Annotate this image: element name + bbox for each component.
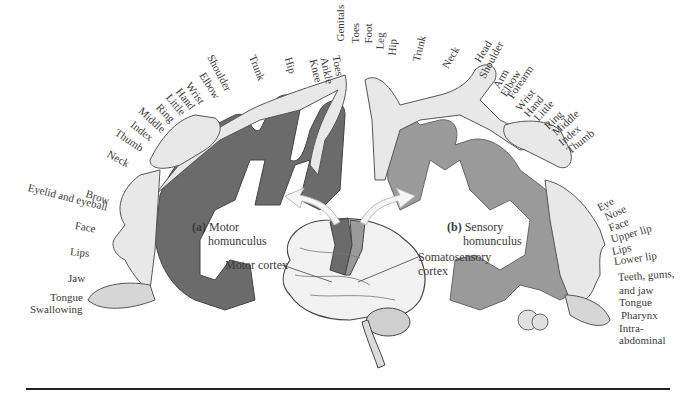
sensory-label-intra: Intra- (619, 323, 643, 334)
motor-tongue (88, 283, 155, 308)
sensory-label-hip: Hip (387, 39, 399, 56)
motor-label-swallowing: Swallowing (30, 304, 83, 315)
motor-caption-line2: homunculus (192, 234, 267, 248)
sensory-label-pharynx: Pharynx (621, 310, 658, 321)
brain-lateral-view (282, 188, 425, 368)
motor-caption-line1: Motor (209, 220, 239, 234)
motor-label-tongue: Tongue (50, 292, 83, 303)
bottom-rule-divider (26, 388, 670, 390)
sensory-caption-line2: homunculus (447, 234, 522, 248)
sensory-label-leg: Leg (375, 32, 387, 49)
sensory-tongue (565, 295, 610, 325)
somatosensory-label-line2: cortex (418, 264, 448, 278)
motor-label-jaw: Jaw (68, 273, 85, 284)
sensory-label-abdominal: abdominal (619, 335, 665, 346)
motor-homunculus-caption: (a) Motor homunculus (192, 220, 267, 248)
motor-caption-letter: (a) (192, 220, 206, 234)
sensory-label-genitals: Genitals (335, 5, 346, 42)
sensory-label-foot: Foot (363, 23, 374, 43)
sensory-label-tongue: Tongue (619, 297, 652, 308)
somatosensory-label-line1: Somatosensory (418, 250, 491, 264)
motor-cortex-label: Motor cortex (225, 258, 288, 272)
sensory-caption-line1: Sensory (465, 220, 504, 234)
sensory-caption-letter: (b) (447, 220, 462, 234)
sensory-homunculus-caption: (b) Sensory homunculus (447, 220, 522, 248)
sensory-label-and-jaw: and jaw (619, 285, 654, 296)
somatosensory-cortex-label: Somatosensory cortex (418, 250, 491, 278)
sensory-label-toes: Toes (350, 23, 361, 44)
motor-head (113, 170, 160, 290)
motor-label-lips: Lips (69, 246, 90, 259)
